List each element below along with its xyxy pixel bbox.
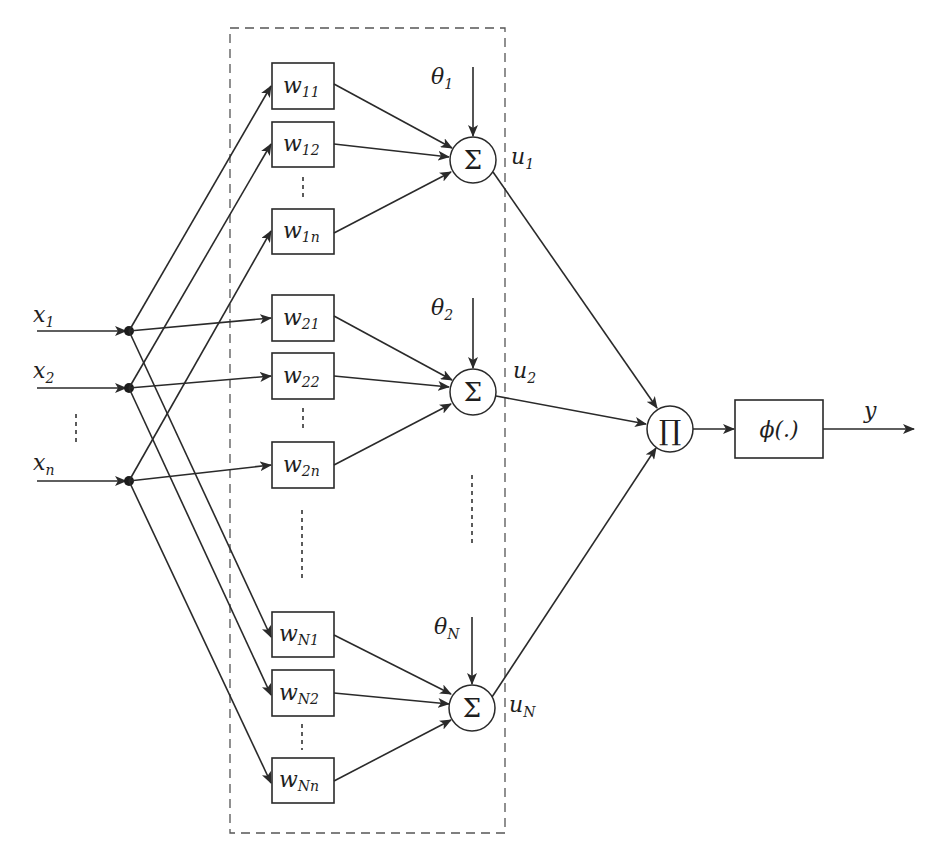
sigma-symbol: Σ bbox=[464, 377, 482, 407]
output-label: y bbox=[863, 398, 877, 423]
svg-text:x1: x1 bbox=[33, 302, 54, 330]
product-symbol: ∏ bbox=[659, 414, 681, 447]
svg-text:u2: u2 bbox=[513, 358, 536, 386]
sigma-symbol: Σ bbox=[464, 145, 482, 175]
svg-text:θN: θN bbox=[434, 614, 460, 642]
input-to-weight-connections bbox=[129, 86, 271, 783]
input-x2: x2 bbox=[33, 358, 134, 393]
activation-stage: ϕ(.) y bbox=[735, 398, 914, 458]
svg-text:u1: u1 bbox=[511, 144, 534, 172]
svg-text:θ2: θ2 bbox=[431, 295, 453, 323]
svg-text:xn: xn bbox=[33, 450, 54, 478]
product-stage: ∏ bbox=[492, 172, 734, 697]
input-x1: x1 bbox=[33, 302, 134, 336]
svg-text:uN: uN bbox=[509, 692, 536, 720]
weight-group-2: w21 w22 w2n θ2 Σ u2 bbox=[272, 295, 536, 488]
svg-text:x2: x2 bbox=[33, 358, 54, 386]
sigma-symbol: Σ bbox=[463, 693, 481, 723]
weight-group-N: wN1 wN2 wNn θN Σ uN bbox=[272, 612, 536, 803]
pi-sigma-network-diagram: x1 x2 xn w11 w12 w1n bbox=[0, 0, 942, 866]
weight-group-1: w11 w12 w1n θ1 Σ u1 bbox=[272, 63, 534, 254]
activation-label: ϕ(.) bbox=[759, 417, 798, 442]
input-xn: xn bbox=[33, 450, 134, 486]
svg-text:θ1: θ1 bbox=[431, 64, 453, 92]
